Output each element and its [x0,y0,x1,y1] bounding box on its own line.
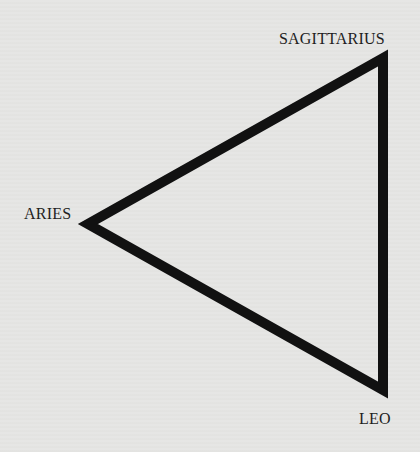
label-aries: ARIES [24,205,71,223]
label-leo: LEO [359,410,391,428]
label-sagittarius: SAGITTARIUS [279,30,385,48]
fire-triangle [0,0,420,452]
